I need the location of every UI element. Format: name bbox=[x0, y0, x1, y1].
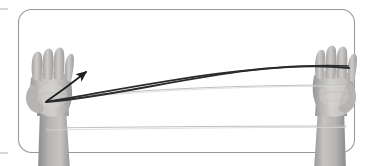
exercise-illustration-stage: Two open hands stretching an elastic res… bbox=[0, 0, 370, 166]
adjacent-panel-edge-sliver bbox=[0, 9, 8, 153]
illustration-canvas bbox=[0, 0, 370, 166]
